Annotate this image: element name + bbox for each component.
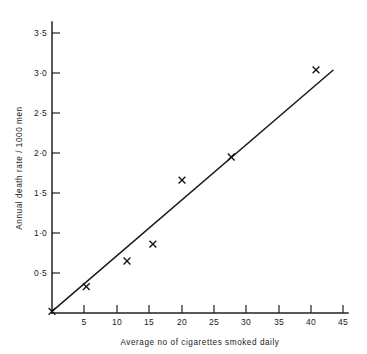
- x-tick-label: 35: [274, 317, 284, 327]
- x-tick-label: 25: [209, 317, 219, 327]
- x-tick-label: 15: [144, 317, 154, 327]
- y-tick-label: 1·0: [34, 228, 47, 238]
- y-tick-label: 2·5: [34, 108, 47, 118]
- y-axis-title: Annual death rate / 1000 men: [15, 106, 24, 229]
- scatter-plot-svg: 0·5 1·0 1·5 2·0 2·5 3·0 3·5 5 10 15 20: [0, 0, 367, 354]
- y-tick-label: 1·5: [34, 188, 47, 198]
- x-tick-label: 10: [112, 317, 122, 327]
- chart-figure: 0·5 1·0 1·5 2·0 2·5 3·0 3·5 5 10 15 20: [0, 0, 367, 354]
- y-tick-label: 2·0: [34, 148, 47, 158]
- y-tick-label: 3·0: [34, 68, 47, 78]
- x-tick-label: 45: [338, 317, 348, 327]
- x-tick-label: 5: [82, 317, 87, 327]
- y-tick-label: 0·5: [34, 268, 47, 278]
- x-tick-label: 40: [306, 317, 316, 327]
- y-tick-label: 3·5: [34, 28, 47, 38]
- plot-background: [0, 0, 367, 354]
- x-axis-tick-labels: 5 10 15 20 25 30 35 40 45: [82, 317, 348, 327]
- x-tick-label: 20: [177, 317, 187, 327]
- x-axis-title: Average no of cigarettes smoked daily: [120, 338, 279, 347]
- x-tick-label: 30: [241, 317, 251, 327]
